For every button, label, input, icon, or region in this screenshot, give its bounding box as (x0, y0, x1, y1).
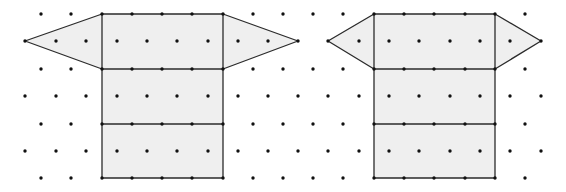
grid-dot (251, 176, 254, 179)
grid-dot (190, 176, 193, 179)
grid-dot (175, 94, 178, 97)
grid-dot (508, 149, 511, 152)
grid-dot (523, 12, 526, 15)
grid-dot (84, 149, 87, 152)
grid-dot (190, 122, 193, 125)
grid-dot (311, 122, 314, 125)
grid-dot (448, 94, 451, 97)
grid-dot (372, 12, 375, 15)
grid-dot (432, 67, 435, 70)
grid-dot (130, 12, 133, 15)
grid-dot (402, 12, 405, 15)
grid-dot (341, 176, 344, 179)
grid-dot (100, 176, 103, 179)
grid-dot (417, 39, 420, 42)
grid-dot (130, 67, 133, 70)
grid-dot (54, 94, 57, 97)
grid-dot (84, 94, 87, 97)
grid-dot (311, 12, 314, 15)
grid-dot (341, 122, 344, 125)
grid-dot (39, 67, 42, 70)
grid-dot (100, 67, 103, 70)
grid-dot (493, 122, 496, 125)
grid-dot (493, 176, 496, 179)
grid-dot (145, 39, 148, 42)
grid-dot (100, 122, 103, 125)
grid-dot (523, 67, 526, 70)
grid-dot (478, 39, 481, 42)
grid-dot (281, 122, 284, 125)
grid-dot (221, 176, 224, 179)
grid-dot (190, 67, 193, 70)
grid-dot (115, 39, 118, 42)
grid-dot (281, 12, 284, 15)
grid-dot (539, 39, 542, 42)
grid-dot (281, 67, 284, 70)
grid-dot (463, 67, 466, 70)
grid-dot (432, 176, 435, 179)
left-net-fill (25, 14, 298, 178)
grid-dot (402, 122, 405, 125)
grid-dot (417, 149, 420, 152)
grid-dot (402, 67, 405, 70)
grid-dot (281, 176, 284, 179)
grid-dot (326, 94, 329, 97)
grid-dot (69, 176, 72, 179)
grid-dot (463, 176, 466, 179)
grid-dot (478, 94, 481, 97)
grid-dot (145, 149, 148, 152)
grid-dot (266, 149, 269, 152)
grid-dot (160, 176, 163, 179)
grid-dot (478, 149, 481, 152)
grid-dot (448, 39, 451, 42)
grid-dot (145, 94, 148, 97)
grid-dot (387, 94, 390, 97)
grid-dot (39, 176, 42, 179)
grid-dot (160, 67, 163, 70)
grid-dot (84, 39, 87, 42)
grid-dot (463, 12, 466, 15)
grid-dot (251, 12, 254, 15)
grid-dot (432, 122, 435, 125)
grid-dot (387, 39, 390, 42)
grid-dot (523, 176, 526, 179)
grid-dot (190, 12, 193, 15)
grid-dot (417, 94, 420, 97)
grid-dot (236, 149, 239, 152)
grid-dot (160, 12, 163, 15)
grid-dot (387, 149, 390, 152)
grid-dot (341, 12, 344, 15)
grid-dot (115, 149, 118, 152)
grid-dot (23, 94, 26, 97)
grid-dot (23, 149, 26, 152)
grid-dot (221, 12, 224, 15)
grid-dot (341, 67, 344, 70)
grid-dot (130, 176, 133, 179)
grid-dot (69, 12, 72, 15)
grid-dot (493, 12, 496, 15)
grid-dot (206, 149, 209, 152)
grid-dot (175, 149, 178, 152)
grid-dot (311, 176, 314, 179)
grid-dot (175, 39, 178, 42)
grid-dot (448, 149, 451, 152)
grid-dot (54, 39, 57, 42)
grid-dot (69, 122, 72, 125)
grid-dot (296, 39, 299, 42)
grid-dot (357, 39, 360, 42)
grid-dot (39, 122, 42, 125)
grid-dot (251, 122, 254, 125)
grid-dot (236, 39, 239, 42)
grid-dot (311, 67, 314, 70)
grid-dot (493, 67, 496, 70)
grid-dot (236, 94, 239, 97)
grid-dot (372, 176, 375, 179)
grid-dot (221, 122, 224, 125)
grid-dot (100, 12, 103, 15)
grid-dot (372, 67, 375, 70)
grid-dot (266, 39, 269, 42)
grid-dot (69, 67, 72, 70)
grid-dot (463, 122, 466, 125)
grid-dot (402, 176, 405, 179)
grid-dot (296, 94, 299, 97)
